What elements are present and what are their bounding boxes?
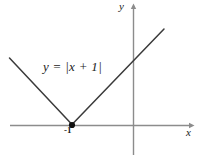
- curve-right-arm: [72, 29, 164, 125]
- axis-label-y: y: [119, 1, 124, 12]
- y-axis-arrowhead: [131, 4, 136, 10]
- axis-label-x: x: [186, 127, 191, 138]
- graph-figure: y x y = |x + 1| -1: [0, 0, 199, 160]
- plot-area: [0, 0, 199, 160]
- vertex-label: -1: [64, 126, 72, 135]
- equation-label: y = |x + 1|: [43, 60, 102, 73]
